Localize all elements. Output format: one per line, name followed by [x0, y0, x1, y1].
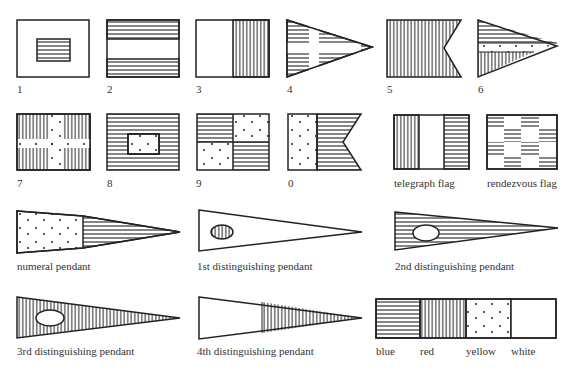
flag-1-label: 1: [17, 83, 23, 95]
flag-2-label: 2: [107, 83, 113, 95]
pendant-third-label: 3rd distinguishing pendant: [17, 345, 134, 357]
legend-white-label: white: [511, 345, 535, 357]
flag-rendezvous: [487, 115, 557, 169]
flag-0-label: 0: [288, 177, 294, 189]
flag-3: [196, 20, 269, 77]
flag-8: [107, 114, 179, 170]
flag-telegraph-label: telegraph flag: [394, 177, 455, 189]
flag-5: [387, 20, 461, 77]
pendant-third: [17, 297, 180, 338]
flags-diagram: [0, 0, 568, 372]
flag-6: [478, 20, 557, 77]
pendant-fourth: [199, 297, 362, 339]
pendant-fourth-label: 4th distinguishing pendant: [197, 345, 314, 357]
flag-telegraph: [394, 115, 469, 169]
flag-5-label: 5: [387, 83, 393, 95]
flag-7: [17, 114, 90, 170]
flag-7-label: 7: [17, 177, 23, 189]
flag-0: [288, 114, 361, 170]
flag-4: [287, 20, 372, 77]
pendant-second: [395, 212, 558, 250]
flag-8-label: 8: [107, 177, 113, 189]
flag-9: [197, 114, 269, 170]
flag-4-label: 4: [287, 83, 293, 95]
color-legend: [376, 299, 556, 338]
flag-3-label: 3: [196, 83, 202, 95]
flag-2: [107, 20, 179, 77]
legend-yellow-label: yellow: [466, 345, 496, 357]
flag-9-label: 9: [196, 177, 202, 189]
pendant-numeral: [17, 211, 180, 253]
pendant-first: [199, 210, 362, 251]
pendant-numeral-label: numeral pendant: [17, 260, 91, 272]
legend-red-label: red: [420, 345, 434, 357]
legend-blue-label: blue: [376, 345, 395, 357]
pendant-first-label: 1st distinguishing pendant: [197, 260, 313, 272]
flag-rendezvous-label: rendezvous flag: [487, 177, 557, 189]
pendant-second-label: 2nd distinguishing pendant: [395, 260, 514, 272]
flag-1: [17, 20, 89, 77]
flag-6-label: 6: [478, 83, 484, 95]
